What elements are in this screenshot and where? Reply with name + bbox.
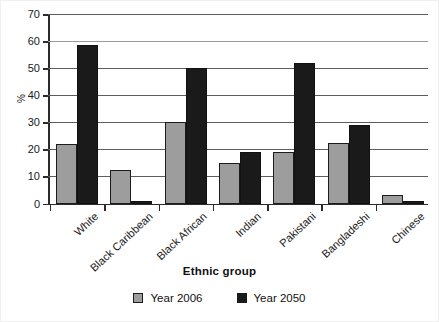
bar-group [328, 14, 370, 204]
bar-pakistani-year-2050 [294, 63, 315, 204]
x-tick-label: Pakistani [277, 210, 318, 249]
y-tick-mark [43, 149, 48, 151]
y-tick-mark [43, 41, 48, 43]
bar-group [219, 14, 261, 204]
bar-pakistani-year-2006 [273, 152, 294, 203]
plot-area: 010203040506070 [48, 14, 428, 205]
bar-chinese-year-2006 [382, 195, 403, 203]
y-tick-label: 40 [28, 89, 40, 101]
bar-group [110, 14, 152, 204]
gray-swatch-icon [133, 293, 143, 303]
black-swatch-icon [237, 293, 247, 303]
x-tick-label: Bangladeshi [320, 210, 372, 260]
x-tick-mark [50, 205, 51, 211]
bar-bangladeshi-year-2006 [328, 143, 349, 204]
legend-item-year-2006: Year 2006 [133, 292, 202, 304]
y-tick-mark [43, 68, 48, 70]
y-tick-mark [43, 14, 48, 16]
y-axis-title: % [16, 94, 27, 103]
bar-chart: % 010203040506070 WhiteBlack CaribbeanBl… [0, 0, 439, 322]
bar-white-year-2006 [56, 144, 77, 204]
y-tick-mark [43, 176, 48, 178]
x-axis-title: Ethnic group [0, 265, 439, 277]
bar-group [165, 14, 207, 204]
y-tick-label: 30 [28, 116, 40, 128]
y-tick-label: 50 [28, 62, 40, 74]
x-tick-mark [213, 205, 214, 211]
x-tick-mark [267, 205, 268, 211]
bar-black-african-year-2050 [186, 68, 207, 203]
bar-group [56, 14, 98, 204]
bar-chinese-year-2050 [403, 201, 424, 204]
chart-legend: Year 2006 Year 2050 [0, 292, 439, 304]
x-tick-mark [159, 205, 160, 211]
bar-bangladeshi-year-2050 [349, 125, 370, 204]
y-tick-mark [43, 204, 48, 206]
y-tick-label: 0 [34, 198, 40, 210]
bar-white-year-2050 [77, 45, 98, 203]
x-tick-mark [376, 205, 377, 211]
legend-label: Year 2050 [254, 292, 306, 304]
bar-black-african-year-2006 [165, 122, 186, 203]
bar-indian-year-2050 [240, 152, 261, 203]
x-tick-label: White [72, 210, 101, 238]
legend-item-year-2050: Year 2050 [237, 292, 306, 304]
y-tick-label: 70 [28, 8, 40, 20]
bar-indian-year-2006 [219, 163, 240, 204]
x-tick-label: Indian [233, 210, 263, 239]
y-tick-label: 20 [28, 143, 40, 155]
y-tick-mark [43, 122, 48, 124]
x-tick-mark [321, 205, 322, 211]
y-tick-label: 60 [28, 35, 40, 47]
x-tick-label: Black African [155, 210, 210, 262]
x-tick-label: Chinese [389, 210, 427, 246]
x-tick-mark [104, 205, 105, 211]
legend-label: Year 2006 [150, 292, 202, 304]
bar-black-caribbean-year-2006 [110, 170, 131, 204]
y-tick-mark [43, 95, 48, 97]
y-tick-label: 10 [28, 170, 40, 182]
bar-group [273, 14, 315, 204]
bar-group [382, 14, 424, 204]
bar-black-caribbean-year-2050 [131, 201, 152, 204]
